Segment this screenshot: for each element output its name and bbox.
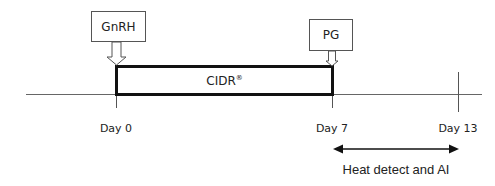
day-13-label: Day 13 — [438, 122, 477, 135]
arrows-layer — [0, 0, 495, 186]
gnrh-arrow-icon — [107, 42, 126, 65]
day-0-label: Day 0 — [100, 122, 132, 135]
interval-double-arrow-icon — [333, 145, 459, 154]
pg-arrow-icon — [326, 51, 338, 66]
day-7-label: Day 7 — [316, 122, 348, 135]
interval-caption: Heat detect and AI — [343, 162, 450, 177]
